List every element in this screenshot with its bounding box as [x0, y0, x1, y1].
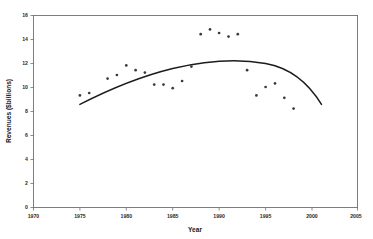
data-point: [162, 83, 165, 86]
data-point: [88, 92, 91, 95]
data-point: [227, 35, 230, 38]
data-point: [190, 65, 193, 68]
y-tick-label: 8: [25, 108, 28, 114]
axis-lines: [33, 15, 358, 208]
x-tick-label: 2000: [306, 213, 318, 219]
data-point: [134, 69, 137, 72]
data-point: [116, 74, 119, 77]
x-tick-label: 1970: [28, 213, 40, 219]
data-point: [144, 71, 147, 74]
data-point: [79, 94, 82, 97]
data-points: [79, 28, 295, 110]
data-point: [181, 80, 184, 83]
x-tick-label: 1975: [74, 213, 86, 219]
chart-canvas: 0 2 4 6 8 10 12 14 16 1970 1975 1980 198…: [0, 0, 373, 239]
x-tick-label: 1985: [167, 213, 179, 219]
x-tick-label: 1980: [121, 213, 133, 219]
data-point: [236, 33, 239, 36]
data-point: [264, 86, 267, 89]
x-tick-label: 1995: [260, 213, 272, 219]
data-point: [255, 94, 258, 97]
data-point: [153, 83, 156, 86]
data-point: [171, 87, 174, 90]
y-tick-label: 4: [25, 156, 28, 162]
data-point: [218, 32, 221, 35]
data-point: [199, 33, 202, 36]
y-tick-label: 12: [22, 60, 28, 66]
x-tick-label: 1990: [213, 213, 225, 219]
y-tick-label: 16: [22, 12, 28, 18]
y-tick-label: 14: [22, 36, 28, 42]
data-point: [246, 69, 249, 72]
data-point: [209, 28, 212, 31]
x-axis-title: Year: [188, 226, 202, 233]
data-point: [283, 96, 286, 99]
data-point: [274, 82, 277, 85]
x-tick-label: 2005: [350, 213, 362, 219]
y-tick-label: 6: [25, 132, 28, 138]
x-tick-labels: 1970 1975 1980 1985 1990 1995 2000 2005: [28, 213, 362, 219]
data-point: [125, 64, 128, 67]
data-point: [292, 107, 295, 110]
y-axis-title: Revenues ($billions): [5, 79, 13, 143]
revenues-vs-year-scatter-chart: 0 2 4 6 8 10 12 14 16 1970 1975 1980 198…: [0, 0, 373, 239]
y-tick-label: 2: [25, 180, 28, 186]
y-tick-label: 0: [25, 204, 28, 210]
data-point: [106, 77, 109, 80]
y-tick-label: 10: [22, 84, 28, 90]
y-tick-labels: 0 2 4 6 8 10 12 14 16: [22, 12, 28, 210]
